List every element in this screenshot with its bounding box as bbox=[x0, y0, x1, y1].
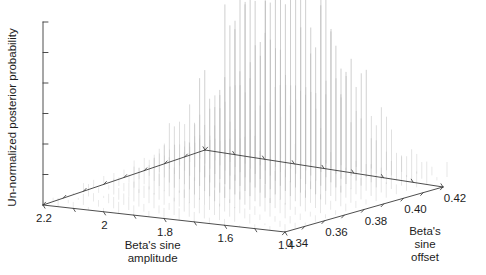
y-tick-label-3: 0.40 bbox=[404, 203, 426, 215]
axis-y-tick bbox=[282, 232, 285, 235]
x-tick-label-1: 2 bbox=[101, 219, 107, 231]
x-tick-label-2: 1.8 bbox=[157, 226, 173, 238]
y-tick-label-2: 0.38 bbox=[365, 215, 387, 227]
stem-plot-3d: 2.221.81.61.40.340.360.380.400.42Beta's … bbox=[0, 0, 486, 275]
stem-group bbox=[43, 0, 447, 232]
ylabel-line-2: offset bbox=[411, 251, 440, 263]
x-tick-label-0: 2.2 bbox=[36, 212, 52, 224]
x-tick-label-3: 1.6 bbox=[218, 232, 234, 244]
y-tick-label-0: 0.34 bbox=[286, 237, 309, 249]
axes-group bbox=[43, 22, 443, 235]
label-group: 2.221.81.61.40.340.360.380.400.42Beta's … bbox=[6, 28, 466, 264]
xlabel-line-1: amplitude bbox=[128, 252, 178, 264]
y-tick-label-1: 0.36 bbox=[325, 226, 347, 238]
axis-y-tick-back bbox=[205, 147, 208, 150]
xlabel-line-0: Beta's sine bbox=[125, 239, 181, 251]
y-tick-label-4: 0.42 bbox=[444, 192, 466, 204]
ylabel-line-0: Beta's bbox=[409, 225, 441, 237]
ylabel-line-1: sine bbox=[414, 238, 435, 250]
zlabel: Un-normalized posterior probability bbox=[6, 28, 18, 207]
figure-canvas: 2.221.81.61.40.340.360.380.400.42Beta's … bbox=[0, 0, 486, 275]
axis-x-tick bbox=[285, 232, 287, 235]
